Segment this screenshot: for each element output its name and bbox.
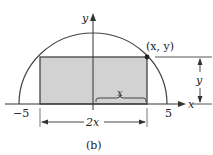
full-width-label: 2x — [85, 116, 100, 129]
half-width-label: x — [117, 87, 123, 98]
x-axis-label: x — [188, 98, 195, 111]
figure-caption: (b) — [86, 139, 102, 152]
y-axis-label: y — [81, 12, 89, 25]
dim-arrow-right-icon — [139, 120, 146, 125]
point-xy — [145, 55, 150, 60]
dim-arrow-left-icon — [41, 120, 48, 125]
point-label: (x, y) — [146, 40, 174, 53]
height-arrow-up-icon — [198, 58, 203, 65]
x-axis-arrow-icon — [178, 101, 186, 107]
height-label: y — [195, 74, 203, 87]
tick-minus-5: −5 — [13, 107, 29, 120]
height-arrow-down-icon — [198, 96, 203, 103]
semicircle-rectangle-diagram: x y −5 5 (x, y) x 2x y (b) — [0, 0, 213, 155]
y-axis-arrow-icon — [90, 13, 96, 21]
tick-5: 5 — [165, 107, 172, 120]
